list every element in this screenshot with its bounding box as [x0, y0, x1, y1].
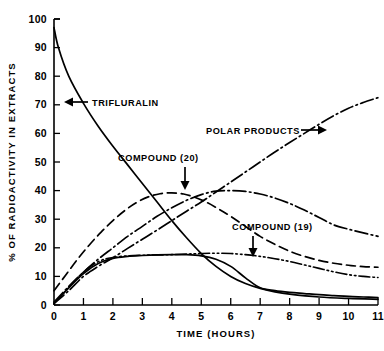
annotation-compound-19: COMPOUND (19): [232, 222, 313, 257]
y-tick-marks: [54, 19, 60, 305]
y-tick-label: 10: [35, 270, 47, 282]
x-tick-label: 5: [198, 310, 204, 322]
y-tick-label: 50: [35, 156, 47, 168]
x-tick-label: 9: [316, 310, 322, 322]
x-tick-label: 3: [139, 310, 145, 322]
annotation-polar-products-label: POLAR PRODUCTS: [206, 126, 300, 136]
x-tick-label: 4: [169, 310, 175, 322]
annotation-compound-19-label: COMPOUND (19): [232, 222, 313, 232]
y-tick-label: 100: [29, 13, 47, 25]
radioactivity-line-chart: 0102030405060708090100 01234567891011 TI…: [0, 0, 384, 351]
curve-baseline: [54, 255, 378, 304]
y-tick-labels: 0102030405060708090100: [29, 13, 47, 311]
y-tick-label: 0: [41, 299, 47, 311]
y-tick-label: 70: [35, 98, 47, 110]
x-tick-labels: 01234567891011: [51, 310, 384, 322]
annotation-trifluralin-arrowhead: [64, 98, 73, 107]
y-tick-label: 30: [35, 213, 47, 225]
x-tick-marks: [83, 298, 378, 305]
data-curves-group: [54, 28, 378, 304]
annotation-compound-20: COMPOUND (20): [118, 153, 199, 190]
x-tick-label: 2: [110, 310, 116, 322]
x-axis-title: TIME (HOURS): [176, 328, 255, 339]
x-tick-label: 7: [257, 310, 263, 322]
y-tick-label: 80: [35, 70, 47, 82]
annotation-compound-20-arrowhead: [181, 181, 190, 190]
annotation-trifluralin: TRIFLURALIN: [64, 98, 159, 109]
x-tick-label: 1: [80, 310, 86, 322]
chart-container: 0102030405060708090100 01234567891011 TI…: [0, 0, 384, 351]
x-tick-label: 10: [342, 310, 354, 322]
y-tick-label: 90: [35, 41, 47, 53]
y-tick-label: 60: [35, 127, 47, 139]
annotation-polar-products-arrowhead: [318, 126, 327, 135]
curve-compound-19: [54, 193, 378, 291]
y-axis-title: % OF RADIOACTIVITY IN EXTRACTS: [6, 62, 17, 262]
annotation-trifluralin-label: TRIFLURALIN: [92, 98, 159, 108]
annotation-polar-products: POLAR PRODUCTS: [206, 126, 327, 137]
x-tick-label: 0: [51, 310, 57, 322]
x-tick-label: 11: [372, 310, 384, 322]
annotation-compound-20-label: COMPOUND (20): [118, 153, 199, 163]
y-tick-label: 20: [35, 241, 47, 253]
y-tick-label: 40: [35, 184, 47, 196]
x-tick-label: 8: [287, 310, 293, 322]
x-tick-label: 6: [228, 310, 234, 322]
